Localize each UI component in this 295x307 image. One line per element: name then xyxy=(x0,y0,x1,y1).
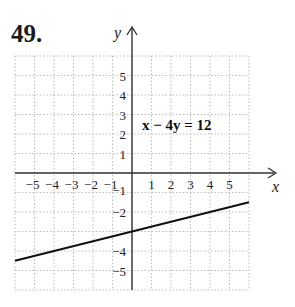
x-tick-label: 1 xyxy=(148,177,155,192)
y-axis-label: y xyxy=(112,24,122,42)
y-tick-label: −1 xyxy=(112,183,126,198)
y-tick-label: 5 xyxy=(120,69,127,84)
x-tick-label: −5 xyxy=(26,177,40,192)
y-tick-label: 3 xyxy=(120,108,127,123)
x-tick-label: 4 xyxy=(207,177,214,192)
y-tick-label: −2 xyxy=(112,205,126,220)
x-tick-label: −4 xyxy=(45,177,59,192)
y-tick-label: −4 xyxy=(112,244,126,259)
equation-text: x − 4y = 12 xyxy=(142,117,212,133)
x-tick-label: −2 xyxy=(84,177,98,192)
x-tick-label: 2 xyxy=(168,177,175,192)
x-tick-label: 3 xyxy=(187,177,194,192)
x-tick-label: −3 xyxy=(65,177,79,192)
y-tick-label: −5 xyxy=(112,264,126,279)
y-tick-label: 4 xyxy=(120,88,127,103)
x-tick-label: 5 xyxy=(226,177,233,192)
y-tick-label: 1 xyxy=(120,147,127,162)
y-tick-label: 2 xyxy=(120,127,127,142)
coordinate-graph: xy−5−4−3−2−11234554321−1−2−4−5x − 4y = 1… xyxy=(0,0,295,307)
x-axis-label: x xyxy=(271,178,279,195)
